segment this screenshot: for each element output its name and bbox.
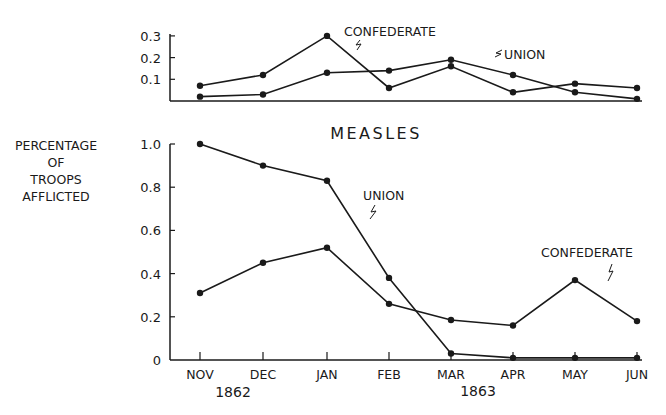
data-point <box>448 57 454 63</box>
top-union-label: UNION <box>504 47 545 62</box>
top-confederate-label: CONFEDERATE <box>344 24 436 39</box>
data-point <box>448 350 454 356</box>
data-point <box>572 89 578 95</box>
data-point <box>386 301 392 307</box>
data-point <box>197 290 203 296</box>
data-point <box>572 355 578 361</box>
data-point <box>197 83 203 89</box>
data-point <box>260 260 266 266</box>
bottom-confederate-label: CONFEDERATE <box>541 245 633 260</box>
chart-title: MEASLES <box>330 124 422 143</box>
data-point <box>572 80 578 86</box>
data-point <box>510 322 516 328</box>
data-point <box>572 277 578 283</box>
bottom-y-tick-label: 0.8 <box>140 180 161 195</box>
data-point <box>324 244 330 250</box>
x-tick-label-may: MAY <box>562 367 588 382</box>
year-label-1862: 1862 <box>215 384 251 400</box>
data-point <box>386 67 392 73</box>
data-point <box>634 355 640 361</box>
data-point <box>510 89 516 95</box>
x-tick-label-feb: FEB <box>377 367 401 382</box>
top-panel-series <box>197 33 640 102</box>
data-point <box>260 162 266 168</box>
data-point <box>448 317 454 323</box>
top-y-tick-label: 0.1 <box>140 72 161 87</box>
top-confederate-pointer-icon <box>356 40 361 50</box>
y-axis-label-line-2: OF <box>47 155 64 170</box>
bottom-confederate-pointer-icon <box>608 264 613 281</box>
x-tick-label-apr: APR <box>501 367 526 382</box>
data-point <box>324 70 330 76</box>
bottom-y-tick-label: 0 <box>153 353 161 368</box>
x-tick-label-mar: MAR <box>437 367 465 382</box>
measles-chart: 0.10.20.3 00.20.40.60.81.0NOVDECJANFEBMA… <box>0 0 666 415</box>
data-point <box>324 178 330 184</box>
data-point <box>260 72 266 78</box>
data-point <box>510 72 516 78</box>
x-tick-label-jan: JAN <box>315 367 337 382</box>
bottom-y-tick-label: 0.4 <box>140 267 161 282</box>
x-tick-label-dec: DEC <box>250 367 277 382</box>
bottom-union-label: UNION <box>363 188 404 203</box>
data-point <box>634 85 640 91</box>
data-point <box>634 96 640 102</box>
top-union-pointer-icon <box>495 50 502 57</box>
data-point <box>448 63 454 69</box>
bottom-y-tick-label: 0.6 <box>140 223 161 238</box>
top-series-line-confederate <box>200 36 637 92</box>
data-point <box>197 93 203 99</box>
bottom-y-tick-label: 0.2 <box>140 310 161 325</box>
y-axis-label-line-3: TROOPS <box>29 172 82 187</box>
data-point <box>324 33 330 39</box>
data-point <box>386 275 392 281</box>
data-point <box>197 141 203 147</box>
bottom-y-tick-label: 1.0 <box>140 137 161 152</box>
top-y-tick-label: 0.2 <box>140 51 161 66</box>
data-point <box>260 91 266 97</box>
data-point <box>510 355 516 361</box>
y-axis-label-line-4: AFFLICTED <box>22 189 89 204</box>
data-point <box>386 85 392 91</box>
top-y-tick-label: 0.3 <box>140 29 161 44</box>
data-point <box>634 318 640 324</box>
x-tick-label-nov: NOV <box>186 367 214 382</box>
y-axis-label-line-1: PERCENTAGE <box>15 138 97 153</box>
bottom-union-pointer-icon <box>370 205 376 219</box>
year-label-1863: 1863 <box>460 383 496 399</box>
x-tick-label-jun: JUN <box>625 367 648 382</box>
